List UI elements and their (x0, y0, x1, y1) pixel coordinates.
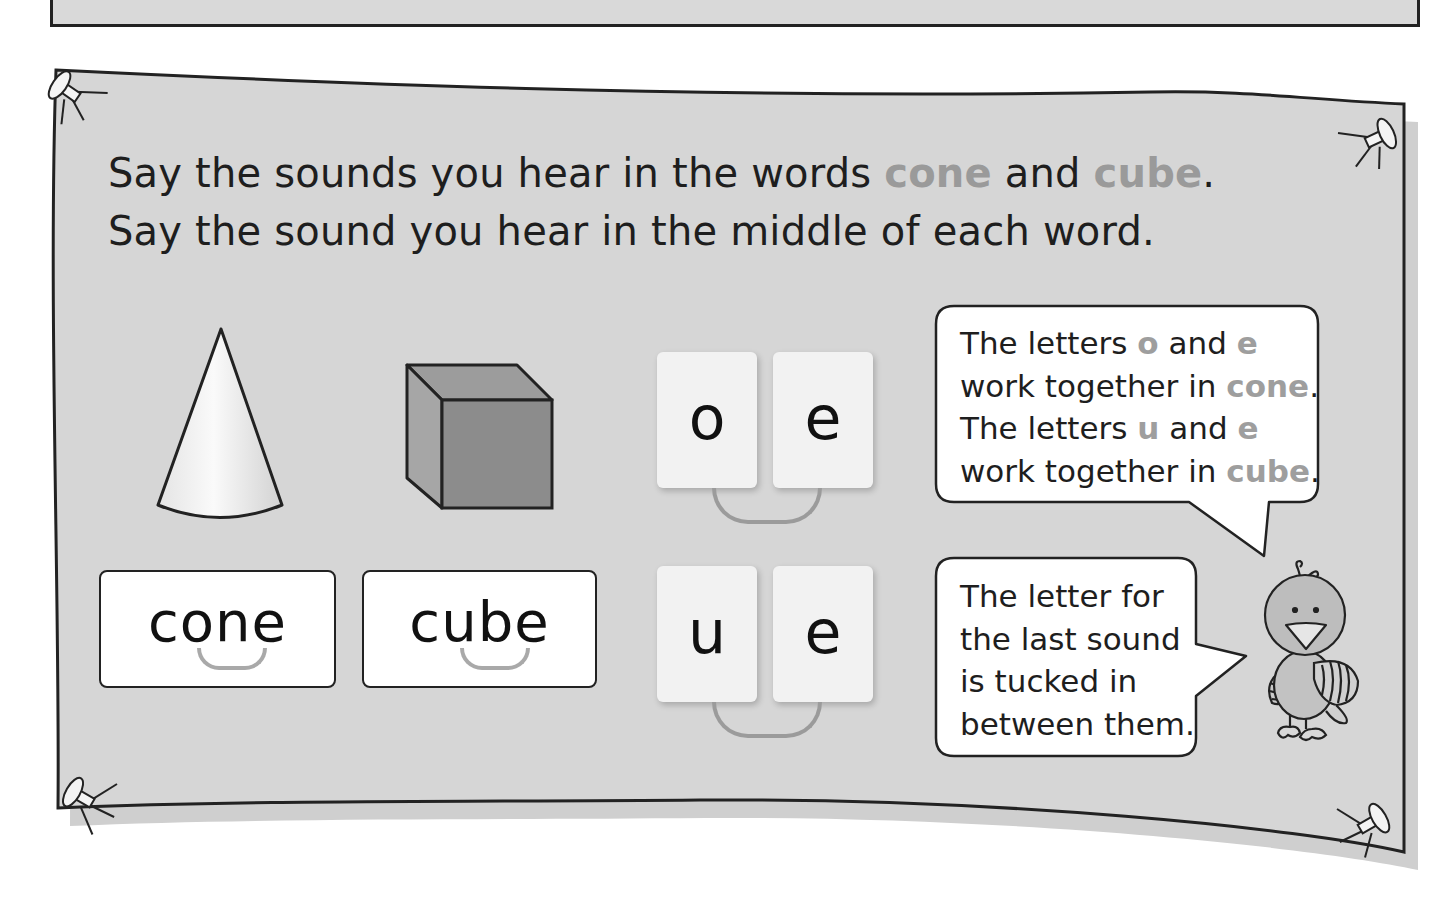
bubble-line: is tucked in (960, 660, 1195, 703)
cube-shape-icon (402, 360, 557, 520)
highlight-letter: u (1137, 410, 1159, 446)
highlight-word: cone (1226, 368, 1309, 404)
highlight-word-cube: cube (1094, 150, 1203, 196)
cone-shape-icon (150, 325, 290, 540)
word-card-cone: cone (99, 570, 336, 688)
letter-tile-e: e (773, 566, 873, 702)
instruction-text: Say the sounds you hear in the words (108, 150, 884, 196)
bubble-line: The letters o and e (960, 322, 1320, 365)
word-card-cube: cube (362, 570, 597, 688)
bubble-text: and (1159, 410, 1237, 446)
instruction-text: . (1202, 150, 1215, 196)
bubble-text: work together in (960, 453, 1226, 489)
bubble-line: The letters u and e (960, 407, 1320, 450)
bubble-line: work together in cube. (960, 450, 1320, 493)
bubble-line: between them. (960, 703, 1195, 746)
bubble-text: . (1309, 368, 1319, 404)
letter-tile-e: e (773, 352, 873, 488)
highlight-letter: e (1237, 325, 1258, 361)
join-arc-icon (197, 648, 267, 670)
bubble-text: work together in (960, 368, 1226, 404)
bubble-line: The letter for (960, 575, 1195, 618)
instruction-line-1: Say the sounds you hear in the words con… (108, 150, 1215, 196)
join-arc-icon (460, 648, 530, 670)
bubble-text: The letters (960, 410, 1137, 446)
highlight-letter: e (1237, 410, 1258, 446)
highlight-letter: o (1137, 325, 1158, 361)
bubble-line: the last sound (960, 618, 1195, 661)
bubble-text: . (1310, 453, 1320, 489)
speech-bubble-2: The letter for the last sound is tucked … (960, 575, 1195, 745)
instruction-text: and (992, 150, 1094, 196)
speech-bubble-1: The letters o and e work together in con… (960, 322, 1320, 492)
highlight-word: cube (1226, 453, 1310, 489)
bird-mascot-icon (1250, 555, 1370, 750)
instruction-line-2: Say the sound you hear in the middle of … (108, 208, 1155, 254)
bubble-line: work together in cone. (960, 365, 1320, 408)
letter-tile-o: o (657, 352, 757, 488)
bubble-text: and (1159, 325, 1237, 361)
letter-tile-u: u (657, 566, 757, 702)
bubble-text: The letters (960, 325, 1137, 361)
highlight-word-cone: cone (884, 150, 992, 196)
